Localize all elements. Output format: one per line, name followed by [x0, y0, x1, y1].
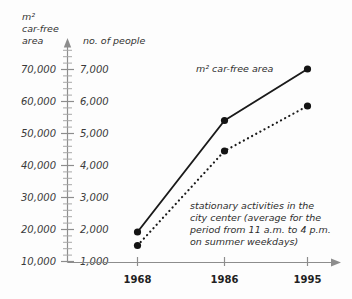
dotted-series-label-line-4: on summer weekdays)	[190, 236, 298, 247]
left-axis-header-line-3: area	[22, 35, 44, 46]
left-tick-label-70000: 70,000	[21, 64, 56, 75]
solid-series-annotation: m² car-free area	[196, 63, 273, 74]
chart-figure: m² car-free area no. of people	[0, 0, 352, 299]
left-tick-label-30000: 30,000	[21, 192, 56, 203]
x-tick-label-1995: 1995	[294, 274, 322, 285]
left-axis-tick-labels: 70,000 60,000 50,000 40,000 30,000 20,00…	[21, 64, 56, 267]
marker-solid-1995	[304, 65, 311, 72]
marker-solid-1968	[134, 228, 141, 235]
x-axis-arrow-icon	[331, 259, 341, 267]
dotted-series-label-line-2: city center (average for the	[190, 212, 321, 223]
dotted-series-annotation: stationary activities in the city center…	[189, 200, 331, 247]
x-tick-label-1968: 1968	[124, 274, 152, 285]
dotted-series-label-line-1: stationary activities in the	[190, 200, 314, 211]
right-tick-label-5000: 5,000	[80, 128, 109, 139]
axis-headers: m² car-free area no. of people	[22, 11, 145, 46]
right-tick-label-6000: 6,000	[80, 96, 109, 107]
x-tick-label-1986: 1986	[211, 274, 239, 285]
y-axis-arrow-icon	[64, 38, 71, 48]
marker-dotted-1968	[134, 242, 141, 249]
y-axis: 70,000 60,000 50,000 40,000 30,000 20,00…	[21, 38, 109, 267]
marker-dotted-1986	[221, 147, 228, 154]
marker-solid-1986	[221, 117, 228, 124]
right-tick-label-7000: 7,000	[80, 64, 109, 75]
right-axis-header: no. of people	[83, 35, 145, 46]
left-axis-header-line-2: car-free	[22, 23, 59, 34]
left-tick-label-60000: 60,000	[21, 96, 56, 107]
left-tick-label-20000: 20,000	[21, 224, 56, 235]
right-axis-tick-labels: 7,000 6,000 5,000 4,000 3,000 2,000 1,00…	[80, 64, 109, 267]
left-tick-label-10000: 10,000	[21, 256, 56, 267]
line-chart: m² car-free area no. of people	[0, 0, 352, 299]
solid-series-label: m² car-free area	[196, 63, 273, 74]
left-tick-label-50000: 50,000	[21, 128, 56, 139]
right-tick-label-1000: 1,000	[80, 256, 109, 267]
dotted-series-label-line-3: period from 11 a.m. to 4 p.m.	[189, 224, 331, 235]
right-tick-label-4000: 4,000	[80, 160, 109, 171]
right-tick-label-2000: 2,000	[80, 224, 109, 235]
marker-dotted-1995	[304, 102, 311, 109]
left-tick-label-40000: 40,000	[21, 160, 56, 171]
right-tick-label-3000: 3,000	[80, 192, 109, 203]
left-axis-header-line-1: m²	[22, 11, 35, 22]
